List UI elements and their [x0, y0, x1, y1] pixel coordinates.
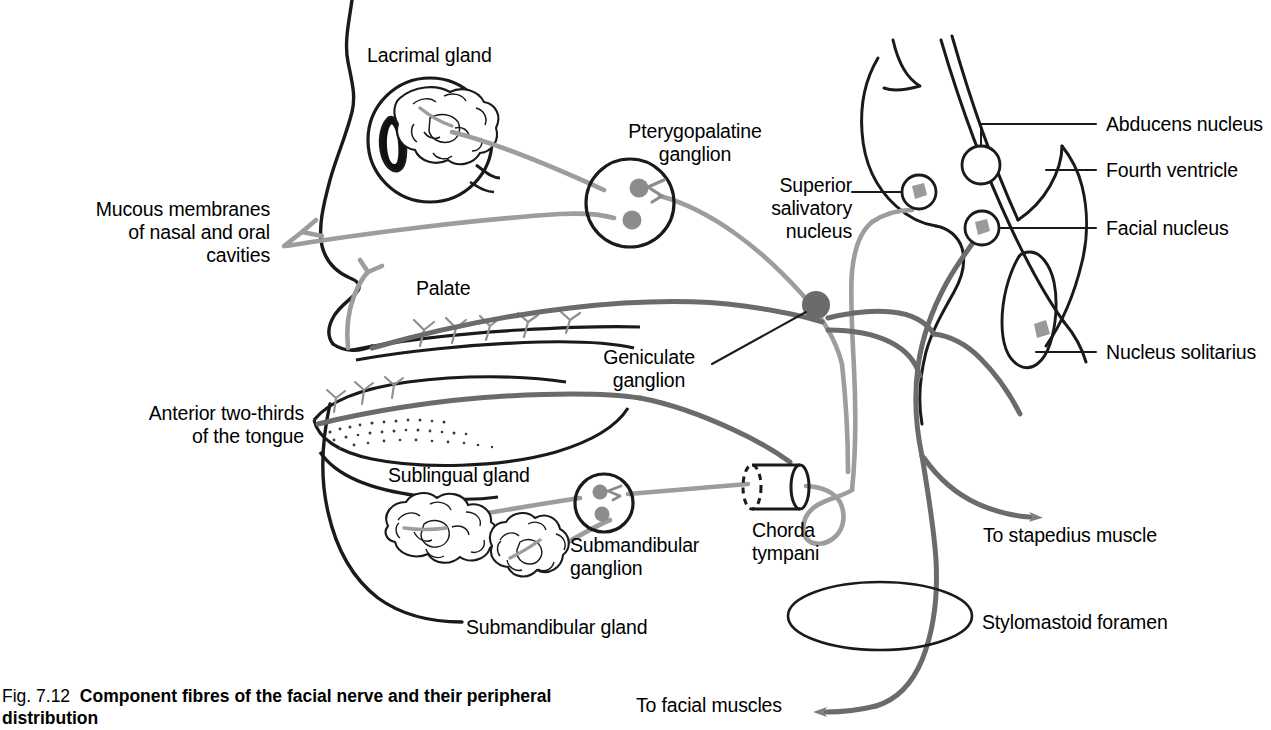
abducens-nucleus: [962, 146, 1000, 184]
label-geniculate-ganglion: Geniculate ganglion: [586, 346, 712, 392]
label-to-stapedius-muscle: To stapedius muscle: [983, 524, 1157, 547]
figure-caption: Fig. 7.12 Component fibres of the facial…: [2, 686, 642, 730]
label-pterygopalatine-ganglion: Pterygopalatine ganglion: [598, 120, 792, 166]
label-superior-salivatory-nucleus: Superior salivatory nucleus: [738, 174, 852, 242]
figure-number: Fig. 7.12: [2, 686, 70, 706]
label-submandibular-gland: Submandibular gland: [466, 616, 647, 639]
stylomastoid-foramen: [788, 582, 972, 650]
label-stylomastoid-foramen: Stylomastoid foramen: [982, 611, 1168, 634]
label-anterior-two-thirds-tongue: Anterior two-thirds of the tongue: [118, 402, 304, 448]
label-nucleus-solitarius: Nucleus solitarius: [1106, 341, 1256, 364]
pterygopalatine-ganglion: [586, 159, 674, 247]
submandibular-gland: [490, 513, 569, 576]
label-fourth-ventricle: Fourth ventricle: [1106, 159, 1238, 182]
facial-nucleus: [965, 211, 999, 245]
label-submandibular-ganglion: Submandibular ganglion: [570, 534, 699, 580]
tongue-stippling: [329, 419, 494, 450]
label-to-facial-muscles: To facial muscles: [636, 694, 782, 717]
head-profile: [321, 0, 372, 350]
superior-salivatory-nucleus: [902, 175, 936, 209]
label-palate: Palate: [416, 277, 470, 300]
geniculate-ganglion: [802, 291, 830, 319]
label-abducens-nucleus: Abducens nucleus: [1106, 113, 1263, 136]
figure-caption-text: Component fibres of the facial nerve and…: [2, 686, 551, 728]
chorda-tympani: [743, 465, 809, 509]
label-lacrimal-gland: Lacrimal gland: [367, 44, 492, 67]
figure-page: Lacrimal gland Pterygopalatine ganglion …: [0, 0, 1271, 730]
label-mucous-membranes: Mucous membranes of nasal and oral cavit…: [52, 198, 270, 266]
label-chorda-tympani: Chorda tympani: [752, 519, 819, 565]
label-sublingual-gland: Sublingual gland: [388, 464, 530, 487]
nucleus-solitarius-marker: [1034, 320, 1050, 338]
tongue: [314, 377, 628, 466]
label-facial-nucleus: Facial nucleus: [1106, 217, 1229, 240]
fourth-ventricle: [1002, 252, 1056, 368]
